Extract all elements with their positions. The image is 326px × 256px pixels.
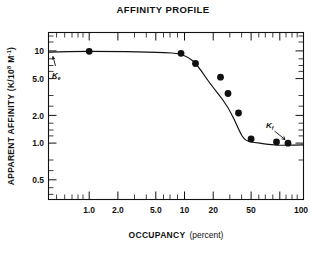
y-axis: 10 5.0 2.0 1.0 0.5 [32, 36, 56, 194]
x-axis-title: OCCUPANCY(percent) [129, 230, 224, 240]
y-tick-label-1: 1.0 [32, 138, 44, 148]
svg-text:OCCUPANCY(percent): OCCUPANCY(percent) [129, 230, 224, 240]
annotation-kf: Kf [266, 121, 285, 140]
x-axis-title-main: OCCUPANCY [129, 230, 186, 240]
y-tick-label-0-5: 0.5 [32, 175, 44, 185]
x-axis-title-unit: (percent) [189, 230, 223, 240]
data-point [178, 50, 185, 57]
data-points [86, 48, 292, 147]
data-point [273, 139, 280, 146]
y-right-ticks [296, 36, 304, 160]
x-major-ticks-top [89, 33, 280, 41]
x-tick-label-1: 1.0 [83, 205, 95, 215]
x-tick-label-5: 5.0 [150, 205, 162, 215]
x-tick-label-2: 2.0 [112, 205, 124, 215]
data-point [217, 74, 224, 81]
data-curve [50, 51, 304, 145]
x-tick-label-10: 10 [180, 205, 190, 215]
data-point [192, 60, 199, 67]
annotation-ke-label: Ke [52, 71, 61, 81]
data-point [285, 140, 292, 147]
x-tick-label-20: 20 [208, 205, 218, 215]
data-point [235, 110, 242, 117]
data-point [86, 48, 93, 55]
svg-text:APPARENT AFFINITY (K/108 M-1): APPARENT AFFINITY (K/108 M-1) [6, 47, 16, 186]
y-axis-title-mid: M [6, 55, 16, 65]
affinity-profile-chart: AFFINITY PROFILE [0, 0, 326, 256]
data-point [248, 136, 255, 143]
annotation-ke: Ke [52, 57, 61, 82]
x-minor-ticks-bottom [57, 195, 298, 200]
y-tick-label-5: 5.0 [32, 74, 44, 84]
annotation-kf-label: Kf [266, 121, 275, 131]
y-axis-title-main: APPARENT AFFINITY (K/10 [6, 69, 16, 185]
x-tick-label-100: 100 [294, 205, 308, 215]
x-tick-label-50: 50 [246, 205, 256, 215]
x-major-ticks-bottom [89, 192, 303, 200]
chart-title: AFFINITY PROFILE [117, 4, 210, 15]
x-minor-ticks-top [57, 33, 298, 38]
y-tick-label-10: 10 [35, 46, 45, 56]
data-point [225, 90, 232, 97]
y-axis-title: APPARENT AFFINITY (K/108 M-1) [6, 47, 16, 186]
plot-frame [49, 33, 304, 200]
y-axis-title-end: ) [6, 47, 16, 50]
y-tick-label-2: 2.0 [32, 111, 44, 121]
